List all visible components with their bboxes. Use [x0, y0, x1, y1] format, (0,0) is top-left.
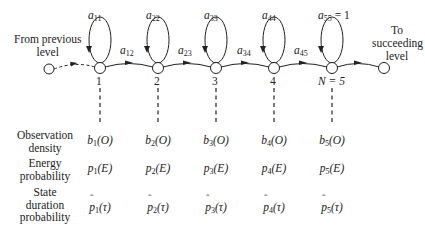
state-label-5: N = 5: [318, 75, 345, 88]
state-duration-probability-1: p1(τ): [75, 201, 125, 215]
transition-4-5: [279, 64, 327, 68]
transition-3-4: [221, 64, 269, 68]
transition-label-45: a45: [294, 44, 308, 60]
state-node-5: [327, 63, 338, 74]
state-duration-probability-3: p3(τ): [191, 201, 241, 215]
transition-1-2: [105, 64, 153, 68]
entry-arc: [54, 64, 95, 69]
observation-density-3: b3(O): [191, 134, 241, 148]
state-node-4: [269, 63, 280, 74]
transition-label-12: a12: [120, 44, 134, 60]
exit-node: [379, 63, 390, 74]
energy-probability-5: p5(E): [307, 162, 357, 176]
self-loop-label-3: a33: [204, 9, 218, 25]
observation-density-2: b2(O): [133, 134, 183, 148]
state-duration-probability-5: p5(τ): [307, 201, 357, 215]
transition-label-23: a23: [178, 44, 192, 60]
state-duration-probability-4: p4(τ): [249, 201, 299, 215]
state-node-2: [153, 63, 164, 74]
self-loop-label-4: a44: [262, 9, 276, 25]
energy-probability-1: p1(E): [75, 162, 125, 176]
observation-density-1: b1(O): [75, 134, 125, 148]
state-label-1: 1: [96, 75, 102, 88]
observation-density-5: b5(O): [307, 134, 357, 148]
self-loop-label-1: a11: [88, 9, 101, 25]
energy-probability-3: p3(E): [191, 162, 241, 176]
transition-label-34: a34: [237, 44, 251, 60]
transition-5-exit: [337, 64, 379, 68]
state-duration-probability-2: p2(τ): [133, 201, 183, 215]
state-node-1: [95, 63, 106, 74]
state-node-3: [211, 63, 222, 74]
energy-probability-2: p2(E): [133, 162, 183, 176]
from-previous-level-label: From previous level: [14, 33, 81, 59]
transition-2-3: [163, 64, 211, 68]
observation-density-4: b4(O): [249, 134, 299, 148]
state-label-4: 4: [270, 75, 276, 88]
entry-node: [44, 64, 54, 74]
self-loop-label-5: a55 = 1: [318, 9, 350, 25]
to-succeeding-level-label: To succeeding level: [372, 24, 422, 63]
energy-probability-4: p4(E): [249, 162, 299, 176]
self-loop-label-2: a22: [146, 9, 160, 25]
state-label-3: 3: [212, 75, 218, 88]
state-label-2: 2: [154, 75, 160, 88]
